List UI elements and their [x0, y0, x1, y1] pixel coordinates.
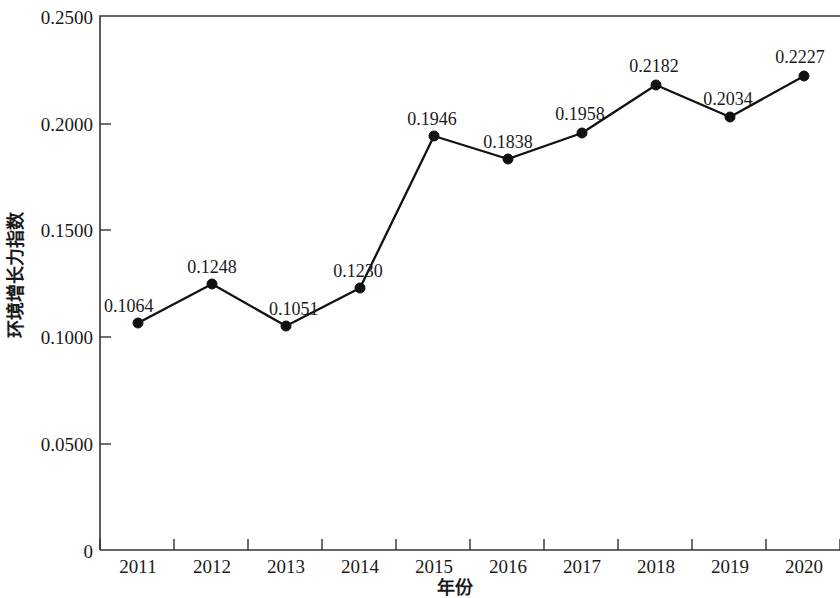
x-tick-label-2016: 2016 — [489, 556, 527, 577]
data-label-2017: 0.1958 — [555, 104, 605, 124]
y-tick-label-0: 0 — [84, 541, 94, 562]
series-markers — [133, 71, 809, 331]
data-point-2015[interactable] — [429, 131, 439, 141]
data-label-2018: 0.2182 — [629, 56, 679, 76]
y-axis-tick-labels: 0.2500 0.2000 0.1500 0.1000 0.0500 0 — [41, 7, 93, 562]
data-point-2014[interactable] — [355, 283, 365, 293]
series-line-environmental-growth-index — [138, 76, 804, 326]
data-label-2016: 0.1838 — [483, 132, 533, 152]
data-label-2020: 0.2227 — [775, 47, 825, 67]
data-label-2015: 0.1946 — [407, 109, 457, 129]
data-label-2012: 0.1248 — [187, 257, 237, 277]
y-axis-title: 环境增长力指数 — [5, 211, 26, 338]
chart-canvas: 0.2500 0.2000 0.1500 0.1000 0.0500 0 201… — [0, 0, 840, 598]
x-axis-tick-labels: 2011 2012 2013 2014 2015 2016 2017 2018 … — [119, 556, 823, 577]
x-tick-label-2020: 2020 — [785, 556, 823, 577]
x-tick-label-2015: 2015 — [415, 556, 453, 577]
y-tick-label-0.2500: 0.2500 — [41, 7, 93, 28]
x-tick-label-2011: 2011 — [119, 556, 156, 577]
data-point-labels: 0.1064 0.1248 0.1051 0.1230 0.1946 0.183… — [104, 47, 825, 319]
x-tick-label-2017: 2017 — [563, 556, 601, 577]
x-axis-title: 年份 — [437, 577, 474, 598]
data-point-2018[interactable] — [651, 80, 661, 90]
data-point-2017[interactable] — [577, 128, 587, 138]
data-label-2014: 0.1230 — [333, 261, 383, 281]
data-point-2020[interactable] — [799, 71, 809, 81]
y-tick-label-0.1000: 0.1000 — [41, 327, 93, 348]
x-tick-label-2012: 2012 — [193, 556, 231, 577]
data-point-2011[interactable] — [133, 318, 143, 328]
data-label-2013: 0.1051 — [269, 299, 319, 319]
x-tick-label-2018: 2018 — [637, 556, 675, 577]
y-tick-label-0.1500: 0.1500 — [41, 220, 93, 241]
line-chart-container: 0.2500 0.2000 0.1500 0.1000 0.0500 0 201… — [0, 0, 840, 598]
data-point-2019[interactable] — [725, 112, 735, 122]
data-label-2011: 0.1064 — [104, 296, 154, 316]
x-tick-label-2013: 2013 — [267, 556, 305, 577]
y-tick-label-0.2000: 0.2000 — [41, 114, 93, 135]
data-point-2012[interactable] — [207, 279, 217, 289]
data-point-2016[interactable] — [503, 154, 513, 164]
y-axis-ticks — [100, 124, 111, 444]
x-tick-label-2014: 2014 — [341, 556, 380, 577]
x-axis-ticks — [100, 539, 840, 550]
y-tick-label-0.0500: 0.0500 — [41, 434, 93, 455]
x-tick-label-2019: 2019 — [711, 556, 749, 577]
data-point-2013[interactable] — [281, 321, 291, 331]
data-label-2019: 0.2034 — [703, 89, 753, 109]
